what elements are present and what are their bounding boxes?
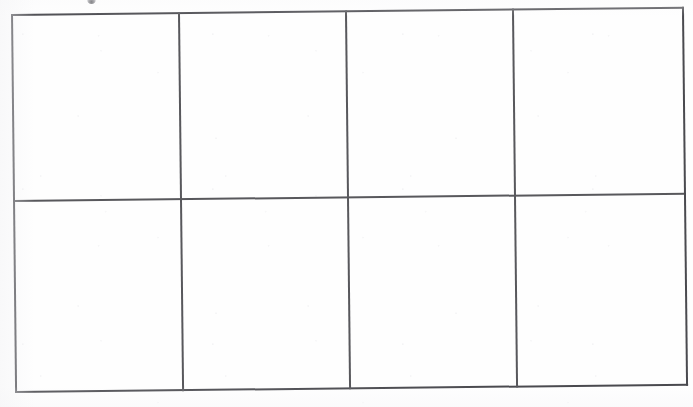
table-cell-r1c2[interactable] [178, 10, 347, 198]
table-cell-r2c1[interactable] [13, 198, 182, 391]
table-cell-r2c4[interactable] [514, 193, 686, 386]
table-cell-r2c3[interactable] [347, 195, 516, 388]
edge-smudge-mark [87, 0, 96, 4]
table-cell-r1c1[interactable] [11, 12, 180, 200]
table-cell-r2c2[interactable] [180, 196, 349, 389]
table-cell-r1c4[interactable] [512, 7, 684, 195]
scanned-page [0, 0, 693, 407]
table-cell-r1c3[interactable] [345, 9, 514, 197]
table-grid [11, 7, 688, 393]
